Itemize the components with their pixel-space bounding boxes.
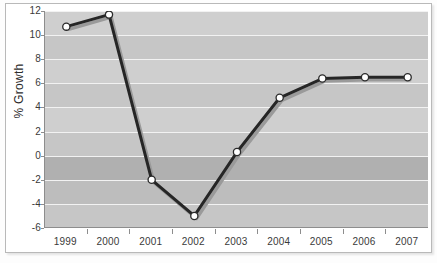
x-tick-group: 2005 — [299, 229, 343, 251]
plot-area — [44, 11, 428, 228]
y-tick-label: 4 — [7, 102, 41, 112]
x-tick-mark — [343, 229, 344, 234]
data-point-marker — [404, 74, 411, 81]
x-tick-label: 2004 — [257, 236, 301, 247]
x-tick-mark — [172, 229, 173, 234]
x-tick-mark — [385, 229, 386, 234]
y-axis-tick-labels: 121086420-2-4-6 — [0, 11, 41, 228]
y-tick-label: 8 — [7, 54, 41, 64]
x-tick-group: 2002 — [171, 229, 215, 251]
x-tick-group: 2007 — [385, 229, 429, 251]
y-tick-label: 0 — [7, 151, 41, 161]
data-point-marker — [319, 75, 326, 82]
y-tick-label: 2 — [7, 127, 41, 137]
y-tick-label: -2 — [7, 175, 41, 185]
x-tick-mark — [300, 229, 301, 234]
x-tick-label: 2001 — [129, 236, 173, 247]
x-tick-group: 2004 — [257, 229, 301, 251]
data-point-marker — [148, 176, 155, 183]
x-tick-label: 2002 — [171, 236, 215, 247]
y-tick-label: 10 — [7, 30, 41, 40]
x-tick-group: 2001 — [129, 229, 173, 251]
data-point-marker — [276, 94, 283, 101]
line-series-growth — [45, 11, 428, 228]
x-tick-mark — [129, 229, 130, 234]
data-point-marker — [105, 11, 112, 18]
data-point-marker — [361, 74, 368, 81]
x-tick-label: 2005 — [299, 236, 343, 247]
data-point-marker — [233, 148, 240, 155]
x-tick-group: 2003 — [214, 229, 258, 251]
data-point-marker — [63, 23, 70, 30]
y-tick-label: 12 — [7, 6, 41, 16]
x-axis-tick-labels: 199920002001200220032004200520062007 — [44, 229, 428, 251]
x-tick-mark — [257, 229, 258, 234]
x-tick-group: 1999 — [43, 229, 87, 251]
y-tick-label: -6 — [7, 223, 41, 233]
x-tick-group: 2006 — [342, 229, 386, 251]
x-tick-label: 2003 — [214, 236, 258, 247]
x-tick-label: 2006 — [342, 236, 386, 247]
x-tick-label: 2007 — [385, 236, 429, 247]
data-point-marker — [191, 212, 198, 219]
x-tick-group: 2000 — [86, 229, 130, 251]
series-main-line — [66, 15, 407, 216]
y-tick-label: -4 — [7, 199, 41, 209]
x-tick-mark — [215, 229, 216, 234]
x-tick-label: 2000 — [86, 236, 130, 247]
chart-figure: % Growth 121086420-2-4-6 199920002001200… — [0, 0, 437, 263]
x-tick-label: 1999 — [43, 236, 87, 247]
series-shadow-line — [69, 17, 410, 218]
x-tick-mark — [87, 229, 88, 234]
y-tick-label: 6 — [7, 78, 41, 88]
